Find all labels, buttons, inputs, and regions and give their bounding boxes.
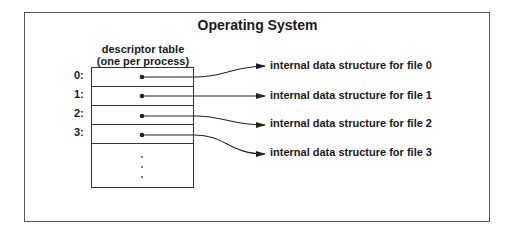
arrow-file-2: [142, 116, 265, 125]
arrow-file-3: [142, 135, 265, 154]
ellipsis-dots: [141, 156, 143, 178]
arrow-file-0: [142, 66, 265, 77]
pointer-dots: [140, 75, 145, 138]
pointer-arrows: [0, 0, 515, 236]
